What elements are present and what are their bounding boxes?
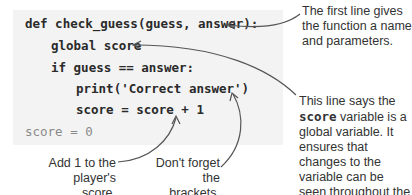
arrow-brackets [221,94,241,167]
arrow-first-line [228,14,300,27]
arrow-global [134,45,296,95]
note-global-var: score [299,109,337,124]
note-global: This line says the score variable is a g… [299,94,411,195]
note-global-pre: This line says the [299,94,396,108]
note-brackets: Don't forget the brackets. [154,156,220,195]
note-first-line: The first line gives the function a name… [302,4,412,49]
note-add-one: Add 1 to the player's score. [40,156,116,195]
